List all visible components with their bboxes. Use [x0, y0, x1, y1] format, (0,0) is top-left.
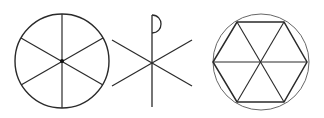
- hexagon-in-circle-icon: [213, 14, 309, 110]
- symbols-figure: [0, 0, 324, 118]
- six-spoked-wheel-icon: [15, 14, 109, 108]
- wheel-hub: [60, 59, 64, 63]
- chi-rho-icon: [112, 15, 192, 107]
- rho-loop: [152, 15, 161, 33]
